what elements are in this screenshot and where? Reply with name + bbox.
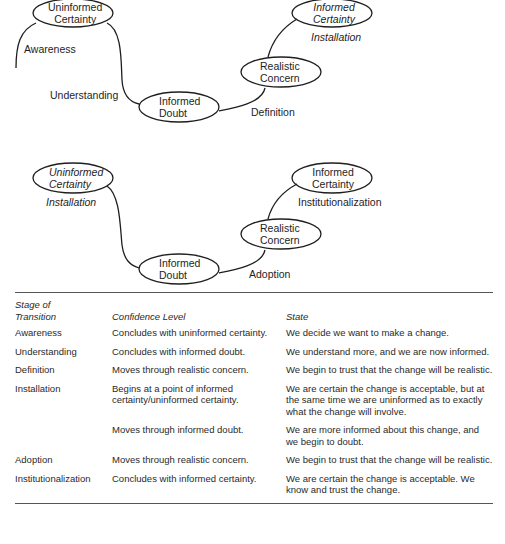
node-label-line2: Certainty [49,178,103,190]
header-stage-line1: Stage of [15,299,112,311]
node-uninformed-certainty-2: Uninformed Certainty [49,166,103,190]
node-label-line1: Informed [313,1,355,13]
table-row: Institutionalization Concludes with info… [15,473,493,503]
bottom-curve-to-certainty [268,184,297,219]
node-label-line1: Realistic [260,222,300,234]
bottom-curve-to-doubt [107,186,139,268]
node-label-line1: Realistic [260,60,300,72]
node-label-line2: Doubt [159,107,200,119]
table-row: Understanding Concludes with informed do… [15,346,493,365]
cell-confidence: Concludes with uninformed certainty. [112,327,286,346]
cell-stage: Understanding [15,346,112,365]
cell-state: We are more informed about this change, … [286,424,493,454]
stage-installation: Installation [311,31,361,43]
node-informed-doubt: Informed Doubt [159,95,200,119]
stage-definition: Definition [251,106,295,118]
node-label-line2: Doubt [159,269,200,281]
node-label-line1: Uninformed [49,166,103,178]
header-state: State [286,293,493,327]
transition-table: Stage of Transition Confidence Level Sta… [15,292,493,504]
cell-stage: Awareness [15,327,112,346]
node-realistic-concern-2: Realistic Concern [260,222,300,246]
installation-curve [268,19,297,57]
cell-stage: Definition [15,364,112,383]
node-label-line2: Concern [260,72,300,84]
stage-understanding: Understanding [50,89,118,101]
cell-stage [15,424,112,454]
node-label-line2: Concern [260,234,300,246]
transition-diagram: Uninformed Certainty Informed Doubt Real… [0,0,505,290]
header-confidence: Confidence Level [112,293,286,327]
cell-state: We are certain the change is acceptable.… [286,473,493,503]
cell-state: We begin to trust that the change will b… [286,454,493,473]
node-label-line1: Informed [312,166,354,178]
node-informed-doubt-2: Informed Doubt [159,257,200,281]
node-uninformed-certainty: Uninformed Certainty [48,1,102,25]
header-stage-line2: Transition [15,311,112,323]
table-row: Adoption Moves through realistic concern… [15,454,493,473]
node-informed-certainty: Informed Certainty [313,1,355,25]
cell-stage: Adoption [15,454,112,473]
node-realistic-concern: Realistic Concern [260,60,300,84]
cell-confidence: Concludes with informed certainty. [112,473,286,503]
stage-adoption: Adoption [249,268,290,280]
table-bottom-rule [15,503,493,504]
cell-confidence: Begins at a point of informed certainty/… [112,383,286,425]
cell-confidence: Moves through realistic concern. [112,454,286,473]
cell-confidence: Moves through informed doubt. [112,424,286,454]
cell-state: We begin to trust that the change will b… [286,364,493,383]
node-informed-certainty-2: Informed Certainty [312,166,354,190]
node-label-line1: Informed [159,95,200,107]
table-row: Definition Moves through realistic conce… [15,364,493,383]
stage-awareness: Awareness [24,43,76,55]
table-row: Installation Begins at a point of inform… [15,383,493,425]
cell-stage: Installation [15,383,112,425]
node-label-line1: Uninformed [48,1,102,13]
node-label-line2: Certainty [48,13,102,25]
cell-state: We understand more, and we are now infor… [286,346,493,365]
cell-state: We decide we want to make a change. [286,327,493,346]
cell-confidence: Moves through realistic concern. [112,364,286,383]
stage-installation-2: Installation [46,196,96,208]
cell-state: We are certain the change is acceptable,… [286,383,493,425]
stage-institutionalization: Institutionalization [298,196,381,208]
table-row: Moves through informed doubt. We are mor… [15,424,493,454]
header-stage: Stage of Transition [15,293,112,327]
stages-table: Stage of Transition Confidence Level Sta… [15,293,493,503]
table-row: Awareness Concludes with uninformed cert… [15,327,493,346]
node-label-line2: Certainty [313,13,355,25]
table-header-row: Stage of Transition Confidence Level Sta… [15,293,493,327]
cell-stage: Institutionalization [15,473,112,503]
cell-confidence: Concludes with informed doubt. [112,346,286,365]
node-label-line1: Informed [159,257,200,269]
node-label-line2: Certainty [312,178,354,190]
